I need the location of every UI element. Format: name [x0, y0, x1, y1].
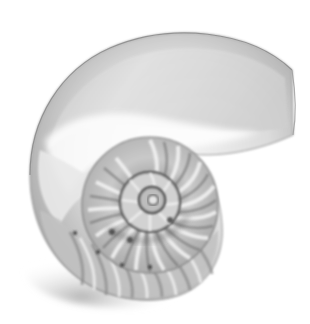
coil-center	[148, 195, 158, 205]
nautilus-shell-photo	[0, 0, 310, 324]
nautilus-shell-illustration	[0, 0, 310, 324]
